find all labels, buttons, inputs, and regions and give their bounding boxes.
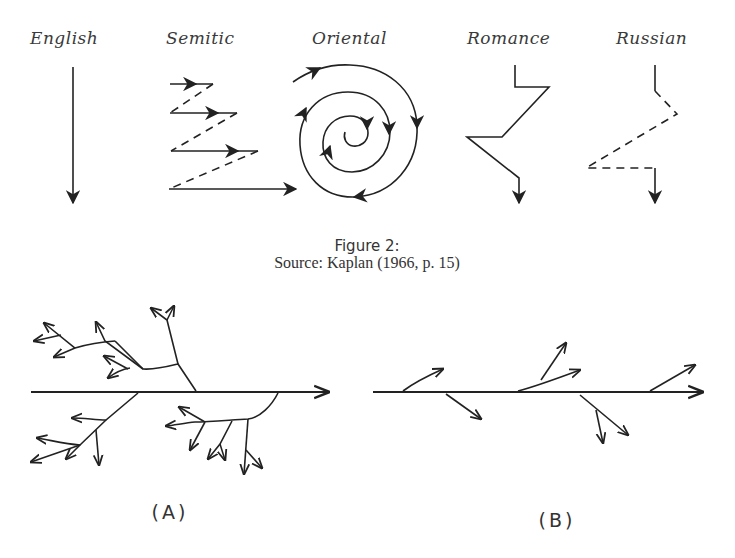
romance-zigzag-icon — [467, 65, 549, 203]
russian-zigzag-icon — [586, 65, 677, 203]
figure-caption-source: Source: Kaplan (1966, p. 15) — [274, 254, 460, 272]
panel-label-a: (A) — [152, 501, 189, 523]
label-oriental: Oriental — [312, 28, 387, 48]
label-russian: Russian — [615, 28, 687, 48]
oriental-spiral-icon — [293, 65, 417, 197]
figure-canvas: English Semitic Oriental Romance Russian — [0, 0, 735, 558]
tree-b-diagram-icon — [373, 343, 702, 443]
semitic-zigzag-icon — [169, 84, 296, 189]
label-english: English — [29, 28, 98, 48]
panel-label-b: (B) — [539, 509, 576, 531]
label-romance: Romance — [466, 28, 550, 48]
figure-caption-title: Figure 2: — [334, 237, 399, 255]
label-semitic: Semitic — [166, 28, 235, 48]
tree-a-diagram-icon — [31, 306, 328, 474]
